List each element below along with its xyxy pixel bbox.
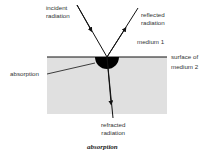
surface-label: surface of medium 2 <box>171 53 198 70</box>
medium-1-label: medium 1 <box>137 38 164 46</box>
absorption-label: absorption <box>10 70 39 78</box>
diagram-caption: absorption <box>87 143 118 151</box>
refracted-label: refracted radiation <box>101 121 125 136</box>
incident-label: incident radiation <box>46 4 70 19</box>
reflected-arrow <box>107 29 125 57</box>
reflected-label: reflected radiation <box>141 11 165 26</box>
incident-arrow <box>77 5 91 30</box>
